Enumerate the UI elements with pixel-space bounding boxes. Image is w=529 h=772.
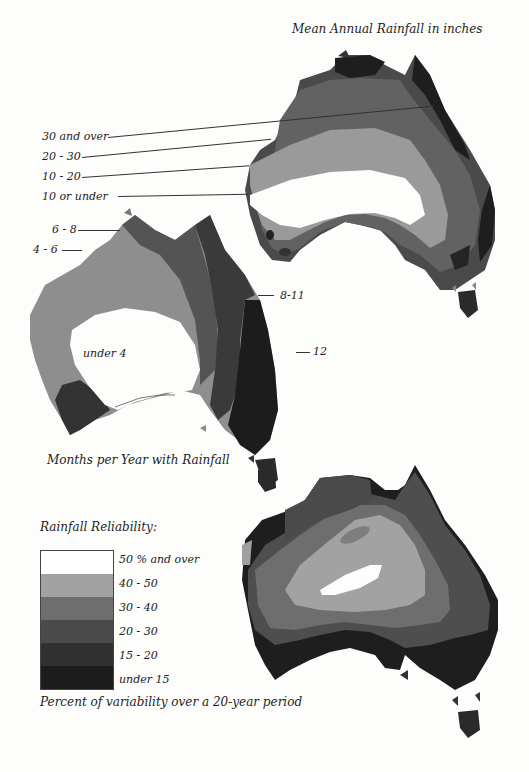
legend-label-20-30: 20 - 30 — [119, 625, 158, 638]
legend-swatch-15-20 — [41, 643, 113, 666]
legend-label-50-and-over: 50 % and over — [119, 553, 199, 566]
legend-swatch-under-15 — [41, 666, 113, 689]
reliability-legend — [40, 550, 114, 690]
legend-label-40-50: 40 - 50 — [119, 577, 158, 590]
legend-swatch-40-50 — [41, 574, 113, 597]
legend-label-15-20: 15 - 20 — [119, 649, 158, 662]
legend-swatch-20-30 — [41, 620, 113, 643]
map3-caption: Percent of variability over a 20-year pe… — [40, 695, 302, 709]
legend-label-under-15: under 15 — [119, 673, 169, 686]
map3-title: Rainfall Reliability: — [40, 520, 157, 534]
legend-label-30-40: 30 - 40 — [119, 601, 158, 614]
legend-swatch-30-40 — [41, 597, 113, 620]
legend-swatch-50-and-over — [41, 551, 113, 574]
